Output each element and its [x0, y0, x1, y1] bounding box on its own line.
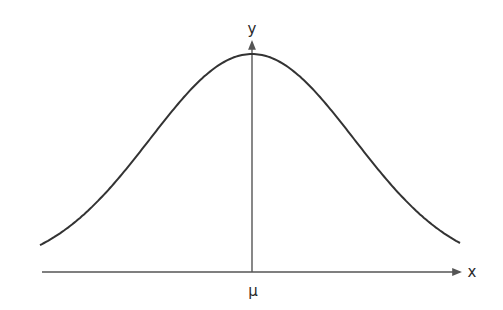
y-axis-label: y — [248, 20, 257, 38]
gaussian-curve — [40, 54, 460, 245]
mean-label: μ — [248, 282, 258, 300]
bell-curve-diagram: y x μ — [0, 0, 503, 310]
x-axis-label: x — [468, 263, 477, 281]
